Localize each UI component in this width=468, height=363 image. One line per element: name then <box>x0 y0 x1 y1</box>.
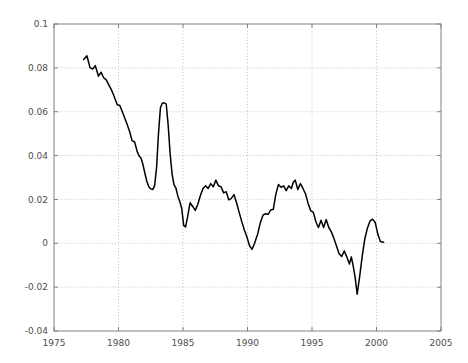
x-tick-label: 2005 <box>430 338 453 348</box>
y-tick-label: 0.04 <box>28 151 48 161</box>
y-tick-label: 0.08 <box>28 63 48 73</box>
y-tick-label: 0.1 <box>34 19 48 29</box>
chart-figure: 1975198019851990199520002005 -0.04-0.020… <box>0 0 468 363</box>
x-tick-label: 1985 <box>172 338 195 348</box>
x-tick-label: 1990 <box>236 338 259 348</box>
y-tick-label: 0 <box>42 238 48 248</box>
y-tick-label: 0.06 <box>28 107 48 117</box>
line-chart: 1975198019851990199520002005 -0.04-0.020… <box>0 0 468 363</box>
plot-area-background <box>54 24 441 331</box>
y-tick-label: -0.04 <box>25 326 49 336</box>
y-tick-label: -0.02 <box>25 282 48 292</box>
x-tick-label: 1980 <box>107 338 130 348</box>
x-tick-label: 2000 <box>365 338 388 348</box>
y-tick-label: 0.02 <box>28 195 48 205</box>
x-tick-label: 1975 <box>43 338 66 348</box>
x-tick-label: 1995 <box>301 338 324 348</box>
